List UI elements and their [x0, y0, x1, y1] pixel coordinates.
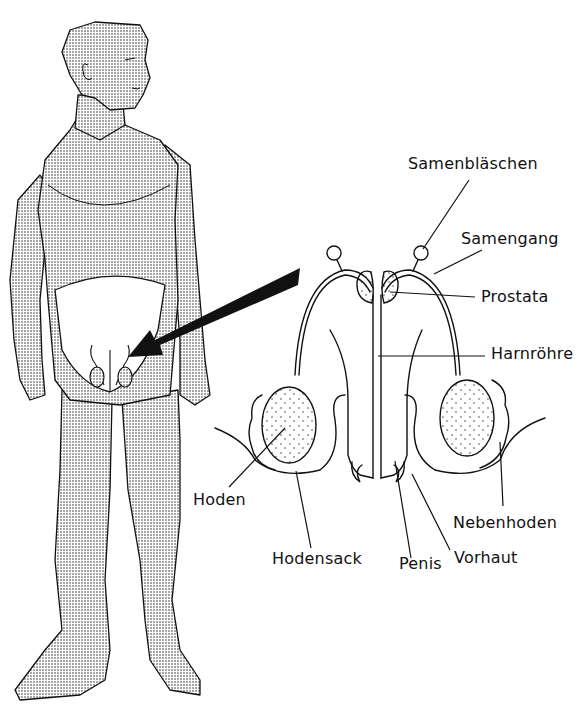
label-vorhaut: Vorhaut: [454, 550, 518, 566]
label-samenblaeschen: Samenbläschen: [408, 156, 538, 172]
label-harnroehre: Harnröhre: [491, 346, 573, 362]
leader-hodensack: [296, 471, 311, 548]
left-leg: [15, 390, 112, 700]
label-hoden: Hoden: [193, 492, 246, 508]
organ-detail: [215, 246, 545, 482]
leader-penis: [395, 461, 411, 558]
head: [62, 22, 150, 110]
right-leg: [122, 390, 200, 695]
label-nebenhoden: Nebenhoden: [453, 515, 557, 531]
label-penis: Penis: [399, 556, 442, 572]
leader-vorhaut: [412, 474, 450, 550]
leader-prostata: [390, 292, 475, 297]
leader-samengang: [434, 250, 482, 274]
label-prostata: Prostata: [481, 289, 548, 305]
label-samengang: Samengang: [461, 231, 559, 247]
label-hodensack: Hodensack: [272, 551, 362, 567]
anatomy-diagram: Samenbläschen Samengang Prostata Harnröh…: [0, 0, 580, 711]
